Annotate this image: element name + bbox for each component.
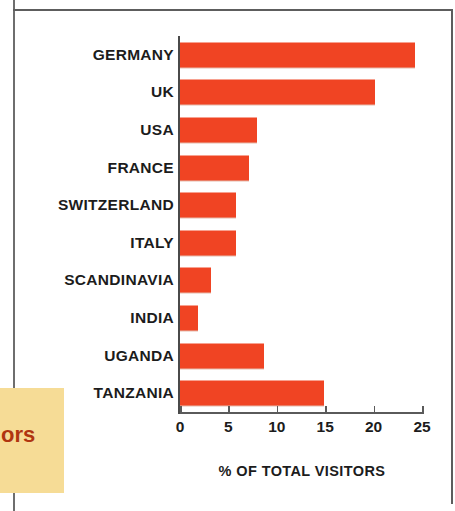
bar-row: INDIA: [0, 299, 455, 337]
bar-category-label: USA: [0, 121, 174, 139]
bar-track: [180, 193, 236, 218]
bar-track: [180, 343, 264, 368]
x-axis-line: [180, 412, 422, 414]
bar-track: [180, 117, 257, 142]
x-axis-tick-label: 10: [268, 418, 285, 436]
bar-category-label: INDIA: [0, 309, 174, 327]
bar-row: SCANDINAVIA: [0, 262, 455, 300]
bar-category-label: SCANDINAVIA: [0, 271, 174, 289]
x-axis-tick-label: 0: [176, 418, 185, 436]
x-axis-tick-label: 5: [224, 418, 233, 436]
bar-row: ITALY: [0, 224, 455, 262]
x-axis-tick: [180, 406, 182, 414]
x-axis-tick: [325, 406, 327, 414]
bar-row: GERMANY: [0, 36, 455, 74]
y-axis-spine: [178, 36, 180, 414]
bar-category-label: ITALY: [0, 234, 174, 252]
bar-track: [180, 305, 198, 330]
bar-track: [180, 381, 324, 406]
bar: [180, 155, 249, 180]
x-axis-tick-label: 25: [413, 418, 430, 436]
bar-track: [180, 80, 375, 105]
bar: [180, 42, 415, 67]
bar-row: UGANDA: [0, 337, 455, 375]
bar-track: [180, 155, 249, 180]
bar: [180, 80, 375, 105]
bar: [180, 305, 198, 330]
bar-track: [180, 42, 415, 67]
bar-category-label: TANZANIA: [0, 384, 174, 402]
x-axis-tick: [277, 406, 279, 414]
bar-category-label: FRANCE: [0, 159, 174, 177]
bar-row: SWITZERLAND: [0, 186, 455, 224]
bar-rows: GERMANYUKUSAFRANCESWITZERLANDITALYSCANDI…: [0, 36, 455, 412]
x-axis-tick: [228, 406, 230, 414]
chart-page: ors GERMANYUKUSAFRANCESWITZERLANDITALYSC…: [0, 0, 455, 511]
bar-track: [180, 230, 236, 255]
bar: [180, 193, 236, 218]
bar-row: UK: [0, 74, 455, 112]
bar: [180, 343, 264, 368]
bar: [180, 117, 257, 142]
bar: [180, 268, 211, 293]
bar-category-label: GERMANY: [0, 46, 174, 64]
bar-category-label: UGANDA: [0, 347, 174, 365]
bar-track: [180, 268, 211, 293]
bar: [180, 230, 236, 255]
x-axis-tick-label: 15: [317, 418, 334, 436]
bar: [180, 381, 324, 406]
x-axis-tick-label: 20: [365, 418, 382, 436]
bar-chart: GERMANYUKUSAFRANCESWITZERLANDITALYSCANDI…: [0, 0, 455, 511]
x-axis-tick: [422, 406, 424, 414]
x-axis-tick: [374, 406, 376, 414]
bar-row: FRANCE: [0, 149, 455, 187]
bar-category-label: SWITZERLAND: [0, 196, 174, 214]
bar-row: USA: [0, 111, 455, 149]
bar-category-label: UK: [0, 83, 174, 101]
x-axis-title: % OF TOTAL VISITORS: [181, 463, 423, 479]
